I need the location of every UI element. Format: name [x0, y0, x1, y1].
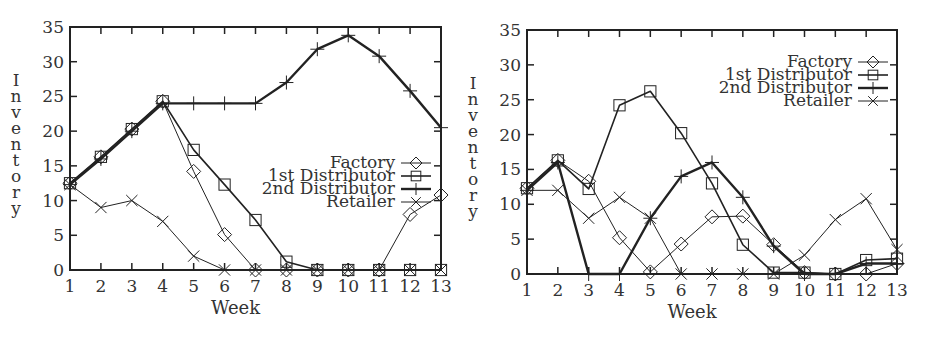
chart-canvas: 0510152025303512345678910111213WeekInven… — [457, 0, 934, 340]
x-tick-label: 11 — [368, 276, 390, 296]
x-tick-label: 4 — [157, 276, 168, 296]
y-axis-label-char: y — [467, 201, 478, 221]
series-1st-distributor — [521, 86, 902, 280]
x-tick-label: 1 — [522, 280, 533, 300]
x-tick-label: 3 — [126, 276, 137, 296]
x-tick-label: 6 — [219, 276, 230, 296]
y-tick-label: 25 — [499, 90, 521, 110]
x-axis-label: Week — [211, 297, 261, 318]
x-tick-label: 13 — [430, 276, 452, 296]
y-tick-label: 25 — [42, 86, 64, 106]
series-factory — [520, 153, 904, 281]
x-tick-label: 3 — [583, 280, 594, 300]
legend: Factory1st Distributor2nd DistributorRet… — [262, 152, 431, 211]
x-tick-label: 5 — [645, 280, 656, 300]
legend-label: Retailer — [783, 90, 853, 110]
y-tick-label: 35 — [42, 17, 64, 37]
y-tick-label: 15 — [499, 159, 521, 179]
x-tick-label: 9 — [768, 280, 779, 300]
x-tick-label: 13 — [886, 280, 908, 300]
y-tick-label: 35 — [499, 20, 521, 40]
y-tick-label: 5 — [510, 229, 521, 249]
x-tick-label: 11 — [825, 280, 847, 300]
x-tick-label: 5 — [188, 276, 199, 296]
y-tick-label: 30 — [42, 52, 64, 72]
y-tick-label: 10 — [42, 191, 64, 211]
legend-label: Retailer — [326, 191, 396, 211]
x-tick-label: 8 — [737, 280, 748, 300]
y-tick-label: 30 — [499, 55, 521, 75]
y-tick-label: 20 — [499, 125, 521, 145]
x-tick-label: 12 — [399, 276, 421, 296]
x-tick-label: 7 — [707, 280, 718, 300]
x-tick-label: 9 — [312, 276, 323, 296]
chart-canvas: 0510152025303512345678910111213WeekInven… — [0, 0, 467, 340]
x-tick-label: 7 — [250, 276, 261, 296]
x-tick-label: 2 — [552, 280, 563, 300]
y-tick-label: 0 — [53, 260, 64, 280]
x-tick-label: 4 — [614, 280, 625, 300]
legend: Factory1st Distributor2nd DistributorRet… — [719, 51, 888, 110]
y-tick-label: 5 — [53, 225, 64, 245]
inventory-chart-right: 0510152025303512345678910111213WeekInven… — [457, 0, 924, 340]
y-tick-label: 20 — [42, 121, 64, 141]
x-tick-label: 10 — [337, 276, 359, 296]
series-retailer — [521, 185, 902, 280]
y-tick-label: 15 — [42, 156, 64, 176]
y-axis-label-char: y — [10, 198, 21, 218]
x-tick-label: 12 — [855, 280, 877, 300]
x-tick-label: 1 — [65, 276, 76, 296]
x-tick-label: 2 — [96, 276, 107, 296]
x-axis-label: Week — [667, 301, 717, 322]
y-tick-label: 0 — [510, 264, 521, 284]
x-tick-label: 10 — [794, 280, 816, 300]
x-tick-label: 8 — [281, 276, 292, 296]
y-tick-label: 10 — [499, 194, 521, 214]
inventory-chart-left: 0510152025303512345678910111213WeekInven… — [0, 0, 467, 340]
x-tick-label: 6 — [676, 280, 687, 300]
